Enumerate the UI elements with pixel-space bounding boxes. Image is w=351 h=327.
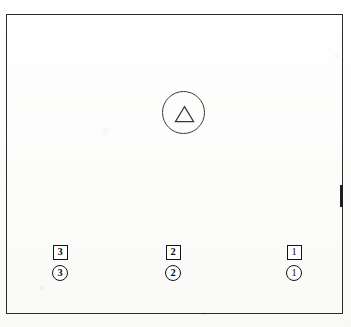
marker-group-1[interactable]: 1 1 (279, 245, 309, 281)
marker-circle-label-3: 3 (57, 268, 62, 279)
figure-frame-rectangle: 3 3 2 2 1 1 (6, 14, 343, 314)
marker-circle-label-2: 2 (170, 268, 175, 279)
circle-with-triangle-symbol (162, 91, 205, 134)
marker-square-label-2: 2 (170, 247, 175, 258)
marker-square-2[interactable]: 2 (166, 245, 181, 260)
marker-circle-1[interactable]: 1 (286, 265, 302, 281)
marker-circle-label-1: 1 (291, 268, 296, 279)
figure-page: 3 3 2 2 1 1 (0, 0, 351, 327)
marker-square-label-3: 3 (57, 247, 62, 258)
marker-circle-2[interactable]: 2 (165, 265, 181, 281)
triangle-icon (174, 105, 195, 123)
marker-square-label-1: 1 (291, 247, 296, 258)
marker-group-2[interactable]: 2 2 (158, 245, 188, 281)
marker-square-3[interactable]: 3 (53, 245, 68, 260)
marker-group-3[interactable]: 3 3 (45, 245, 75, 281)
frame-ink-blob (340, 185, 343, 207)
marker-circle-3[interactable]: 3 (52, 265, 68, 281)
marker-square-1[interactable]: 1 (287, 245, 302, 260)
